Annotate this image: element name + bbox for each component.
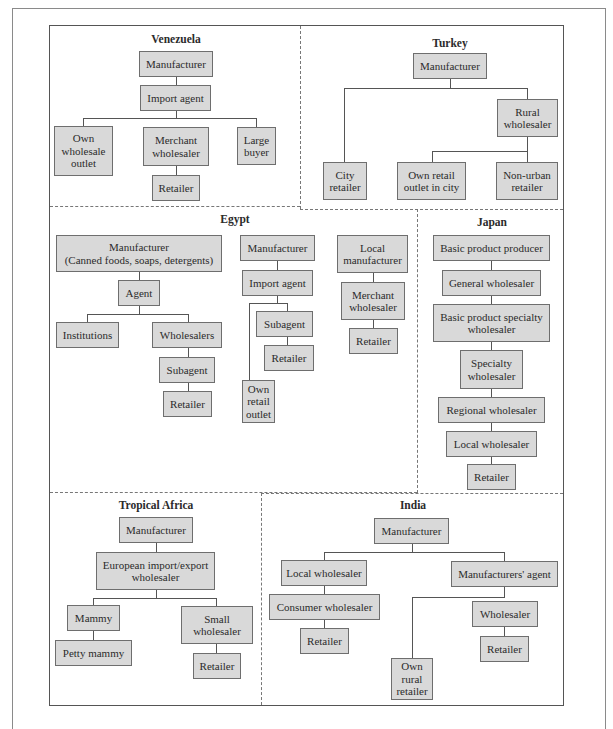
japan-basic-product-specialty-wholesaler: Basic product specialty wholesaler xyxy=(433,304,550,342)
india-manufacturer: Manufacturer xyxy=(374,518,449,544)
venezuela-merchant-wholesaler: Merchant wholesaler xyxy=(143,127,209,166)
india-own-rural-retailer: Own rural retailer xyxy=(391,658,433,700)
egypt-manufacturer-b: Manufacturer xyxy=(240,235,315,261)
egypt-retailer-b: Retailer xyxy=(264,345,314,371)
egypt-agent: Agent xyxy=(118,280,160,306)
japan-general-wholesaler: General wholesaler xyxy=(442,270,541,296)
turkey-non-urban-retailer: Non-urban retailer xyxy=(496,162,558,200)
venezuela-import-agent: Import agent xyxy=(140,85,211,111)
region-title-india: India xyxy=(400,499,426,511)
africa-european-import-export-wholesaler: European import/export wholesaler xyxy=(96,552,215,590)
turkey-city-retailer: City retailer xyxy=(323,162,367,200)
egypt-merchant-wholesaler: Merchant wholesaler xyxy=(341,282,405,320)
india-retailer-a: Retailer xyxy=(300,628,349,654)
africa-manufacturer: Manufacturer xyxy=(119,517,193,543)
turkey-own-retail-outlet: Own retail outlet in city xyxy=(397,162,466,200)
divider-turkey-bottom xyxy=(300,209,563,210)
japan-retailer: Retailer xyxy=(467,464,516,490)
egypt-local-manufacturer: Local manufacturer xyxy=(337,235,408,273)
india-local-wholesaler: Local wholesaler xyxy=(281,560,367,586)
india-consumer-wholesaler: Consumer wholesaler xyxy=(269,594,380,620)
region-title-tropical-africa: Tropical Africa xyxy=(119,499,194,511)
divider-japan-bottom xyxy=(261,493,563,494)
egypt-subagent-b: Subagent xyxy=(256,311,313,337)
turkey-rural-wholesaler: Rural wholesaler xyxy=(497,99,558,137)
region-title-venezuela: Venezuela xyxy=(151,33,200,45)
divider-africa-india xyxy=(261,493,262,705)
india-retailer-b: Retailer xyxy=(480,636,529,662)
region-title-egypt: Egypt xyxy=(220,213,249,225)
africa-small-wholesaler: Small wholesaler xyxy=(181,606,253,644)
divider-venezuela-bottom xyxy=(50,206,300,207)
egypt-retailer-c: Retailer xyxy=(349,328,398,354)
region-title-turkey: Turkey xyxy=(432,37,467,49)
egypt-subagent-a: Subagent xyxy=(159,357,215,383)
japan-regional-wholesaler: Regional wholesaler xyxy=(438,397,545,423)
egypt-wholesalers: Wholesalers xyxy=(152,322,222,348)
turkey-manufacturer: Manufacturer xyxy=(413,53,487,79)
africa-retailer: Retailer xyxy=(193,653,241,679)
venezuela-large-buyer: Large buyer xyxy=(237,127,276,165)
japan-basic-product-producer: Basic product producer xyxy=(433,235,550,261)
egypt-manufacturer-canned-foods: Manufacturer (Canned foods, soaps, deter… xyxy=(56,235,222,272)
egypt-institutions: Institutions xyxy=(56,322,119,348)
venezuela-manufacturer: Manufacturer xyxy=(139,51,213,77)
japan-specialty-wholesaler: Specialty wholesaler xyxy=(460,350,523,389)
africa-petty-mammy: Petty mammy xyxy=(55,640,132,666)
egypt-import-agent: Import agent xyxy=(242,270,313,296)
africa-mammy: Mammy xyxy=(67,605,120,631)
india-wholesaler: Wholesaler xyxy=(472,601,538,627)
venezuela-retailer: Retailer xyxy=(152,175,200,201)
divider-egypt-japan xyxy=(417,209,418,493)
venezuela-own-wholesale-outlet: Own wholesale outlet xyxy=(54,126,113,176)
india-manufacturers-agent: Manufacturers' agent xyxy=(451,561,558,587)
region-title-japan: Japan xyxy=(477,216,507,228)
divider-venezuela-turkey xyxy=(300,26,301,209)
japan-local-wholesaler: Local wholesaler xyxy=(446,431,537,457)
egypt-own-retail-outlet: Own retail outlet xyxy=(242,380,275,423)
egypt-retailer-a: Retailer xyxy=(163,391,212,417)
